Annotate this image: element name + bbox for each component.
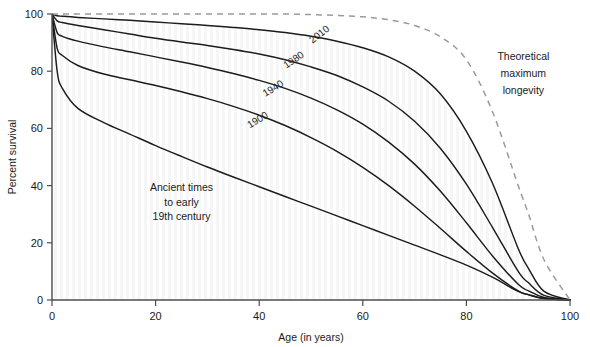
- x-axis-label: Age (in years): [278, 331, 343, 343]
- y-tick-label: 20: [31, 237, 43, 249]
- survival-curve-chart: 020406080100020406080100Age (in years)Pe…: [0, 0, 590, 347]
- band-texture-overlay: [52, 14, 570, 300]
- annotation-to-early: to early: [164, 196, 199, 208]
- x-tick-label: 100: [561, 310, 579, 322]
- x-tick-label: 80: [460, 310, 472, 322]
- x-tick-label: 60: [357, 310, 369, 322]
- annotation-theoretical: Theoretical: [497, 50, 549, 62]
- chart-figure: 020406080100020406080100Age (in years)Pe…: [0, 0, 590, 347]
- x-tick-label: 20: [149, 310, 161, 322]
- y-axis-label: Percent survival: [6, 120, 18, 195]
- x-tick-label: 40: [253, 310, 265, 322]
- annotation-ancient-times: Ancient times: [150, 181, 213, 193]
- y-tick-label: 80: [31, 65, 43, 77]
- y-tick-label: 60: [31, 122, 43, 134]
- x-tick-label: 0: [49, 310, 55, 322]
- y-tick-label: 40: [31, 180, 43, 192]
- y-tick-label: 100: [25, 8, 43, 20]
- annotation-19th-century: 19th century: [153, 210, 212, 222]
- annotation-longevity: longevity: [503, 84, 545, 96]
- y-tick-label: 0: [37, 294, 43, 306]
- annotation-maximum: maximum: [501, 67, 547, 79]
